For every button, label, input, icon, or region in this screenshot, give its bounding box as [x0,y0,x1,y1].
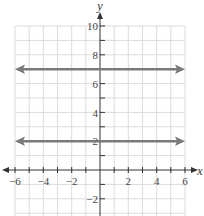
x-axis-label: x [196,164,203,178]
y-tick-label: 6 [93,78,99,90]
axes [4,14,196,216]
y-axis-arrow-up-icon [97,12,103,19]
x-axis-arrow-left-icon [2,167,9,173]
x-tick-label: 6 [182,175,188,187]
y-tick-label: 10 [87,20,99,32]
x-tick-label: 2 [126,175,132,187]
coordinate-plane: −6 −4 −2 2 4 6 10 8 6 4 2 −2 y x [0,0,204,216]
x-tick-label: −6 [9,175,21,187]
y-ticks [100,26,105,199]
x-tick-label: −4 [37,175,49,187]
x-tick-label: 4 [154,175,160,187]
x-tick-label: −2 [66,175,78,187]
y-tick-label: −2 [86,193,98,205]
y-tick-label: 4 [93,107,99,119]
y-tick-label: 8 [93,49,99,61]
y-axis-label: y [96,0,103,13]
